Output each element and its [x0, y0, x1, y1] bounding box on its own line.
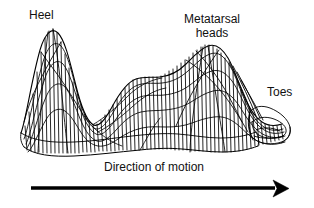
direction-arrow	[31, 180, 289, 197]
label-metatarsal-heads: Metatarsal heads	[181, 12, 243, 40]
pressure-surface-plot	[0, 0, 314, 208]
label-toes: Toes	[267, 86, 292, 99]
base-left-cap	[21, 133, 24, 147]
label-metatarsal-line2: heads	[181, 26, 243, 40]
mesh-verticals-metatarsal	[165, 45, 251, 152]
label-direction-of-motion: Direction of motion	[104, 161, 204, 174]
label-heel: Heel	[29, 9, 54, 22]
figure-root: Heel Metatarsal heads Toes Direction of …	[0, 0, 314, 208]
label-metatarsal-line1: Metatarsal	[181, 12, 243, 26]
direction-arrow-head	[273, 180, 289, 197]
surface-mesh	[21, 29, 291, 156]
